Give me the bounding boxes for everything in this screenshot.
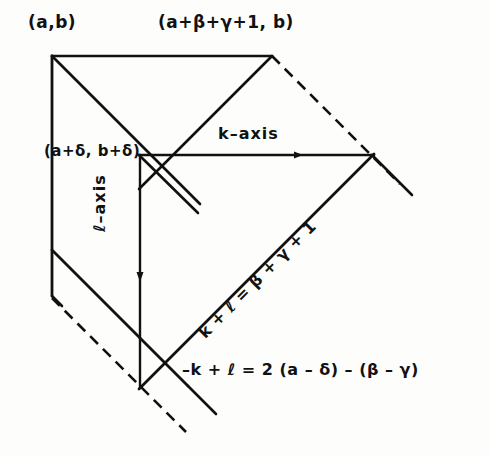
label-vertex-top-left: (a,b)	[28, 14, 76, 31]
stub-cross-interior	[139, 155, 198, 213]
figure-root: (a,b) (a+β+γ+1, b) (a+δ, b+δ) k–axis ℓ–a…	[0, 0, 490, 457]
label-k-axis: k–axis	[218, 126, 279, 142]
label-vertex-top-right: (a+β+γ+1, b)	[158, 14, 294, 31]
edge-diagonal-from-top-right	[139, 56, 272, 189]
k-axis-arrow-icon	[294, 152, 303, 159]
diagram-canvas	[0, 0, 490, 457]
label-vertex-interior: (a+δ, b+δ)	[44, 144, 140, 159]
l-axis-arrow-icon	[137, 272, 144, 282]
label-l-axis: ℓ–axis	[92, 174, 108, 232]
label-bottom-equation: –k + ℓ = 2 (a – δ) – (β – γ)	[182, 362, 419, 378]
boundary-minus-k-plus-l-tail	[188, 386, 216, 414]
edge-diagonal-from-top-left	[52, 56, 200, 204]
dashed-edge-upper-right	[272, 56, 400, 184]
